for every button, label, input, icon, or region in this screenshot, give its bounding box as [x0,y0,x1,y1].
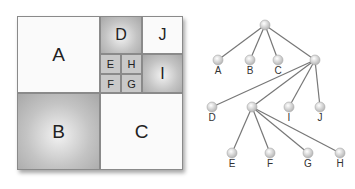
tree-label-e: E [229,158,236,169]
tree-node-f [265,148,275,158]
tree-node-c [273,55,283,65]
tree-node-j [315,102,325,112]
tree-label-i: I [288,112,291,123]
tree-label-f: F [267,158,273,169]
tree-label-h: H [336,158,343,169]
tree-label-a: A [215,65,222,76]
tree-node-h [335,148,345,158]
tree-node-internal [310,55,320,65]
tree-node-g [303,148,313,158]
tree-node-d [207,102,217,112]
tree-label-c: C [274,65,281,76]
tree-node-b [245,55,255,65]
tree-diagram: A B C D I J E F G H [0,0,355,189]
tree-label-b: B [247,65,254,76]
tree-node-e [227,148,237,158]
tree-label-j: J [318,112,323,123]
tree-node-root [260,20,270,30]
tree-node-internal-efgh [247,102,257,112]
tree-node-a [213,55,223,65]
tree-label-d: D [208,112,215,123]
tree-node-i [284,102,294,112]
tree-label-g: G [304,158,312,169]
